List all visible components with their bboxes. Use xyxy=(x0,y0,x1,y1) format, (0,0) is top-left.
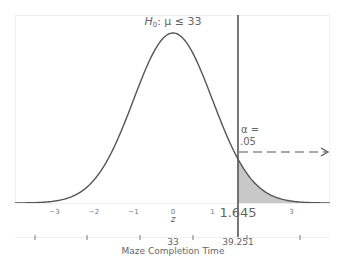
chart-title: H0: μ ≤ 33 xyxy=(144,15,201,29)
rejection-region xyxy=(238,159,330,203)
critical-z-label: 1.645 xyxy=(219,205,256,220)
plot-frame xyxy=(16,16,330,204)
critical-raw-label: 39.251 xyxy=(222,237,254,247)
z-tick-label: −1 xyxy=(128,208,138,216)
z-axis-label: z xyxy=(170,214,176,224)
z-tick-label: −2 xyxy=(89,208,99,216)
normal-curve xyxy=(15,33,330,203)
z-tick-label: 1 xyxy=(210,208,214,216)
z-tick-label: 3 xyxy=(289,208,293,216)
z-tick-label: −3 xyxy=(49,208,59,216)
alpha-label: α = xyxy=(241,124,259,135)
chart: H0: μ ≤ 33 α = .05 −3−2−1013 1.645 z 33 … xyxy=(0,0,343,267)
raw-axis-label: Maze Completion Time xyxy=(122,246,225,256)
alpha-value: .05 xyxy=(240,136,256,147)
